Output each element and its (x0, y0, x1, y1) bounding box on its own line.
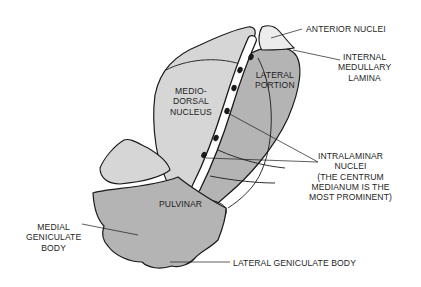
intralaminar-nuclei-callout: INTRALAMINAR NUCLEI (THE CENTRUM MEDIANU… (309, 151, 392, 202)
lateral-geniculate-callout: LATERAL GENICULATE BODY (233, 258, 356, 268)
pulvinar-label: PULVINAR (159, 199, 202, 209)
internal-medullary-lamina-callout: INTERNAL MEDULLARY LAMINA (338, 52, 391, 83)
medio-dorsal-label: MEDIO- DORSAL NUCLEUS (170, 86, 212, 117)
lateral-portion-label: LATERAL PORTION (255, 70, 295, 91)
anterior-nuclei-callout: ANTERIOR NUCLEI (306, 24, 386, 34)
thalamus-diagram: MEDIO- DORSAL NUCLEUS LATERAL PORTION PU… (0, 0, 421, 287)
anterior-nuclei-region (259, 26, 294, 50)
medial-geniculate-callout: MEDIAL GENICULATE BODY (26, 222, 81, 253)
